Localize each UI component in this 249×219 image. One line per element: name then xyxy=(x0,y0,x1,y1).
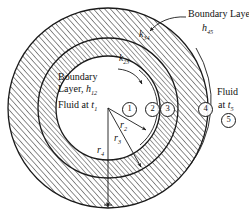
station-marker-3: 3 xyxy=(160,102,175,117)
thermal-resistance-diagram: Boundary Layer h45 k34 k23 Boundary Laye… xyxy=(0,0,249,219)
label-boundary-layer-inner-line1: Boundary xyxy=(58,72,97,83)
station-marker-1: 1 xyxy=(122,102,137,117)
station-marker-4: 4 xyxy=(198,102,213,117)
label-k23: k23 xyxy=(119,54,129,65)
label-boundary-layer-outer: Boundary Layer xyxy=(188,9,249,20)
label-r4: r4 xyxy=(97,145,104,158)
label-fluid-at-t1: Fluid at t1 xyxy=(58,100,97,113)
label-k34: k34 xyxy=(139,29,150,42)
label-r2: r2 xyxy=(120,120,127,133)
label-r3: r3 xyxy=(114,133,121,146)
station-marker-2: 2 xyxy=(145,102,160,117)
leader-boundary-layer-inner xyxy=(118,69,142,84)
label-boundary-layer-inner-line2: Layer, h12 xyxy=(58,84,97,97)
label-fluid-outer-line1: Fluid xyxy=(217,87,238,98)
label-fluid-outer-line2: at t5 xyxy=(218,100,234,113)
station-marker-5: 5 xyxy=(221,113,236,128)
label-h45: h45 xyxy=(202,23,213,36)
